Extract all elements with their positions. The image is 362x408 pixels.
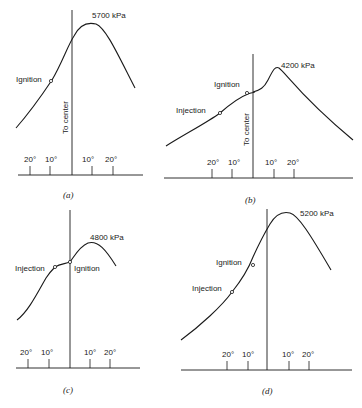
- panel-a: 20° 10° 10° 20° Ignition 5700 kPa To cen…: [16, 10, 143, 200]
- tick-label-d-r20: 20°: [302, 350, 314, 359]
- tick-label-b-r10: 10°: [265, 158, 277, 167]
- tick-label-c-r10: 10°: [84, 348, 96, 357]
- pressure-curve-c: [17, 242, 116, 320]
- tick-label-b-l20: 20°: [207, 158, 219, 167]
- center-label-a: To center: [61, 101, 70, 134]
- peak-label-d: 5200 kPa: [300, 209, 334, 218]
- ignition-label-a: Ignition: [16, 75, 42, 84]
- panel-b: 20° 10° 10° 20° Injection Ignition 4200 …: [164, 54, 353, 205]
- peak-label-b: 4200 kPa: [281, 61, 315, 70]
- tick-label-c-l20: 20°: [20, 348, 32, 357]
- caption-a: (a): [63, 190, 74, 200]
- tick-label-a-r10: 10°: [82, 155, 94, 164]
- injection-marker-b: [218, 111, 221, 114]
- ignition-marker-d: [251, 263, 254, 266]
- tick-label-a-r20: 20°: [105, 155, 117, 164]
- injection-label-c: Injection: [15, 264, 45, 273]
- tick-label-b-l10: 10°: [228, 158, 240, 167]
- ignition-label-c: Ignition: [74, 264, 100, 273]
- ignition-marker-b: [245, 91, 248, 94]
- tick-label-d-l20: 20°: [222, 350, 234, 359]
- tick-label-d-l10: 10°: [242, 350, 254, 359]
- ignition-label-d: Ignition: [216, 258, 242, 267]
- panel-c: 20° 10° 10° 20° Injection Ignition 4800 …: [15, 210, 140, 395]
- tick-label-a-l10: 10°: [45, 155, 57, 164]
- diagram-canvas: 20° 10° 10° 20° Ignition 5700 kPa To cen…: [0, 0, 362, 408]
- peak-label-c: 4800 kPa: [90, 233, 124, 242]
- injection-label-d: Injection: [192, 284, 222, 293]
- caption-d: (d): [262, 386, 273, 396]
- caption-c: (c): [63, 385, 73, 395]
- peak-label-a: 5700 kPa: [92, 11, 126, 20]
- pressure-curve-d: [181, 212, 331, 340]
- ignition-marker-c: [68, 260, 71, 263]
- injection-label-b: Injection: [176, 106, 206, 115]
- caption-b: (b): [245, 195, 256, 205]
- tick-label-c-l10: 10°: [41, 348, 53, 357]
- injection-marker-d: [230, 290, 233, 293]
- injection-marker-c: [53, 265, 56, 268]
- tick-label-a-l20: 20°: [24, 155, 36, 164]
- panel-d: 20° 10° 10° 20° Injection Ignition 5200 …: [181, 209, 352, 396]
- center-label-b: To center: [242, 113, 251, 146]
- ignition-marker-a: [49, 79, 52, 82]
- tick-label-b-r20: 20°: [287, 158, 299, 167]
- ignition-label-b: Ignition: [214, 80, 240, 89]
- tick-label-c-r20: 20°: [104, 348, 116, 357]
- tick-label-d-r10: 10°: [282, 350, 294, 359]
